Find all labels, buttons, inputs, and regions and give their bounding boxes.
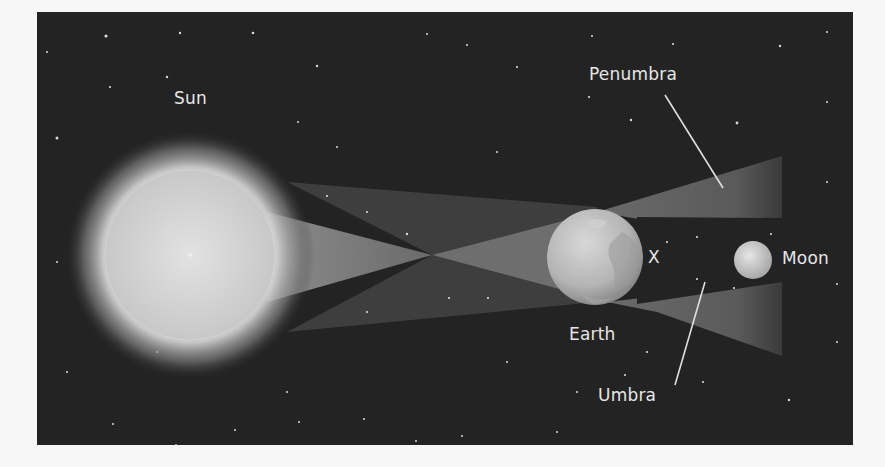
penumbra-leader-line (665, 95, 723, 188)
x-marker-label: X (648, 247, 660, 267)
earth (547, 209, 643, 305)
earth-label: Earth (569, 324, 616, 344)
moon (734, 241, 772, 279)
sun-label: Sun (174, 88, 207, 108)
eclipse-illustration (37, 12, 853, 445)
penumbra-upper (597, 156, 782, 222)
umbra-label: Umbra (598, 385, 656, 405)
moon-label: Moon (782, 248, 829, 268)
space-diagram-panel: Sun Penumbra X Moon Earth Umbra (37, 12, 853, 445)
penumbra-label: Penumbra (589, 64, 677, 84)
sun (65, 130, 315, 380)
